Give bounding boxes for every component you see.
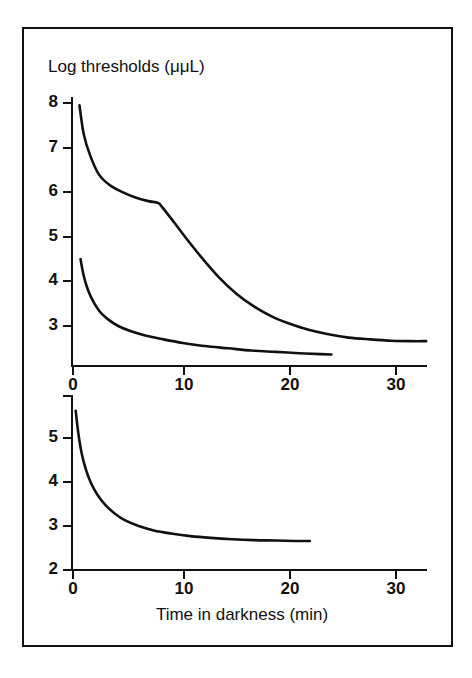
bottom-x-label-30: 30: [387, 579, 406, 598]
top-y-label-6: 6: [49, 181, 58, 200]
rod-cone-curve: [79, 105, 426, 341]
top-y-label-7: 7: [49, 137, 58, 156]
top-panel-y-ticks: [63, 103, 72, 326]
top-y-label-5: 5: [49, 226, 58, 245]
top-x-label-10: 10: [175, 375, 194, 394]
dark-adaptation-chart: 8 7 6 5 4 3 0 10 20 30 Log thresholds (μ…: [0, 0, 472, 678]
bottom-y-label-4: 4: [49, 471, 59, 490]
bottom-y-label-5: 5: [49, 427, 58, 446]
bottom-panel: 5 4 3 2 0 10 20 30: [49, 396, 426, 598]
top-y-label-3: 3: [49, 315, 58, 334]
cone-curve-bottom: [76, 411, 310, 541]
bottom-x-label-20: 20: [281, 579, 300, 598]
bottom-y-label-2: 2: [49, 559, 58, 578]
bottom-x-label-0: 0: [68, 579, 77, 598]
top-panel: 8 7 6 5 4 3 0 10 20 30: [49, 92, 427, 394]
top-x-label-20: 20: [281, 375, 300, 394]
cone-curve-top: [81, 259, 332, 354]
bottom-y-label-3: 3: [49, 515, 58, 534]
bottom-panel-x-ticks: [73, 570, 396, 579]
x-axis-title: Time in darkness (min): [156, 605, 328, 624]
top-y-label-8: 8: [49, 92, 58, 111]
top-panel-x-ticks: [73, 366, 396, 375]
bottom-x-label-10: 10: [175, 579, 194, 598]
y-axis-title: Log thresholds (μμL): [48, 57, 205, 76]
top-y-label-4: 4: [49, 270, 59, 289]
top-x-label-0: 0: [68, 375, 77, 394]
bottom-panel-y-ticks: [63, 396, 72, 570]
figure-root: 8 7 6 5 4 3 0 10 20 30 Log thresholds (μ…: [0, 0, 472, 678]
top-x-label-30: 30: [387, 375, 406, 394]
